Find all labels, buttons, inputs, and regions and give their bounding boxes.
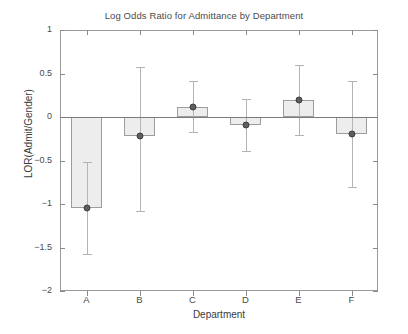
x-tick-mark [140,291,141,296]
y-tick-label: 1 [18,24,52,34]
x-axis-label: Department [60,309,378,320]
y-tick-mark [60,74,65,75]
y-tick-mark [373,30,378,31]
x-tick-mark [352,291,353,296]
error-bar-cap [348,81,357,82]
x-tick-mark [140,30,141,35]
chart-figure: Log Odds Ratio for Admittance by Departm… [0,0,408,334]
y-tick-mark [373,161,378,162]
x-tick-mark [246,30,247,35]
y-tick-mark [60,204,65,205]
y-tick-mark [373,248,378,249]
x-tick-mark [299,291,300,296]
x-tick-mark [193,291,194,296]
y-tick-label: −2 [18,285,52,295]
error-bar-cap [189,81,198,82]
y-tick-mark [373,204,378,205]
y-tick-mark [60,30,65,31]
y-tick-label: −1.5 [18,242,52,252]
y-tick-label: 0 [18,111,52,121]
x-tick-mark [352,30,353,35]
y-tick-mark [373,74,378,75]
error-bar-cap [136,67,145,68]
error-bar-cap [348,187,357,188]
plot-area [60,30,378,291]
y-axis-label: LOR(Admit/Gender) [23,54,34,214]
y-tick-mark [60,248,65,249]
zero-reference-line [60,117,378,118]
data-point-d [242,121,249,128]
y-tick-label: −0.5 [18,155,52,165]
x-tick-mark [246,291,247,296]
data-point-f [348,131,355,138]
error-bar-cap [295,65,304,66]
error-bar-cap [83,162,92,163]
x-tick-mark [87,291,88,296]
error-bar-cap [242,151,251,152]
data-point-c [189,103,196,110]
error-bar-cap [242,99,251,100]
x-tick-mark [299,30,300,35]
chart-title: Log Odds Ratio for Admittance by Departm… [0,10,408,21]
data-point-b [136,133,143,140]
y-tick-mark [60,161,65,162]
x-tick-mark [87,30,88,35]
y-tick-label: 0.5 [18,68,52,78]
error-bar-cap [189,132,198,133]
error-bar-cap [295,135,304,136]
data-point-e [295,97,302,104]
y-tick-mark [373,291,378,292]
error-bar-cap [83,254,92,255]
y-tick-mark [60,291,65,292]
x-tick-mark [193,30,194,35]
y-tick-label: −1 [18,198,52,208]
data-point-a [83,205,90,212]
error-bar-cap [136,211,145,212]
